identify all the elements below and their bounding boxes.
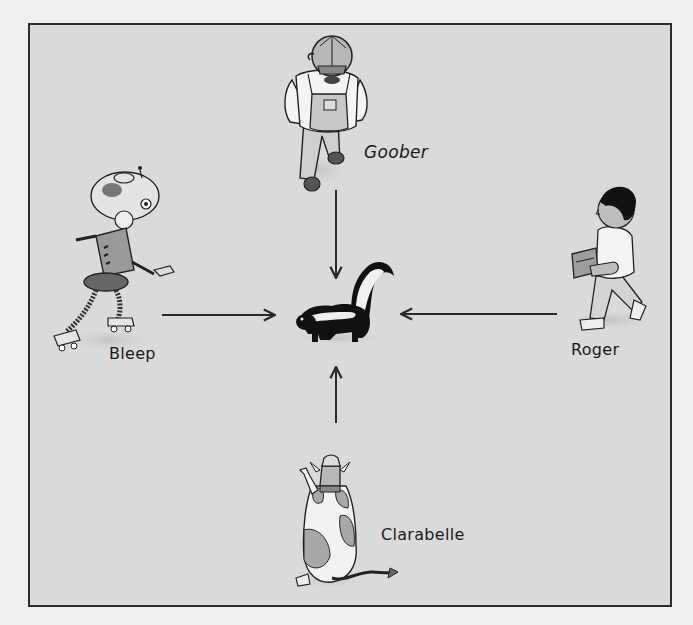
skunk-illustration <box>294 262 394 345</box>
clarabelle-label: Clarabelle <box>381 525 465 544</box>
scene-drawing <box>0 0 693 625</box>
goober-label: Goober <box>364 142 428 162</box>
roger-illustration <box>570 187 650 330</box>
clarabelle-illustration <box>296 455 398 588</box>
page: Goober Bleep Roger Clarabelle <box>0 0 693 625</box>
goober-illustration <box>285 36 367 191</box>
bleep-illustration <box>54 166 174 351</box>
bleep-label: Bleep <box>109 344 156 363</box>
roger-label: Roger <box>571 340 619 359</box>
